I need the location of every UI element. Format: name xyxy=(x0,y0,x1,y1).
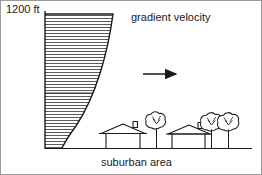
terrain-label: suburban area xyxy=(101,157,172,168)
house-icon xyxy=(99,122,147,149)
gradient-velocity-label: gradient velocity xyxy=(131,12,211,23)
velocity-profile-area xyxy=(45,14,115,148)
tree-icon xyxy=(146,112,166,148)
gradient-height-label: 1200 ft xyxy=(6,4,40,15)
wind-gradient-diagram: 1200 ft gradient velocity suburban area xyxy=(0,0,262,175)
diagram-canvas xyxy=(0,0,262,175)
tree-icon xyxy=(217,113,238,148)
